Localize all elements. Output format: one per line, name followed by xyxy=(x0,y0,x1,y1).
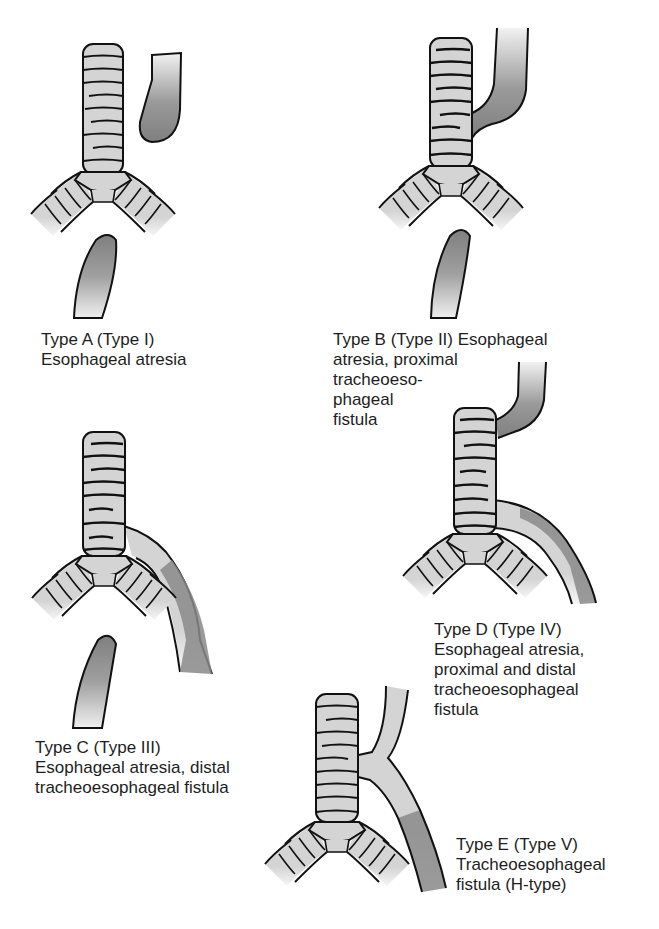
label-type-c: Type C (Type III) Esophageal atresia, di… xyxy=(35,738,230,798)
label-line: Esophageal atresia, distal xyxy=(35,758,230,778)
esophagus-lower-segment-a xyxy=(74,235,116,318)
label-line: proximal and distal xyxy=(434,660,584,680)
panel-type-a xyxy=(31,44,181,318)
label-line: atresia, proximal xyxy=(333,350,548,370)
label-line: fistula (H-type) xyxy=(456,875,606,895)
label-line: tracheoesophageal xyxy=(434,680,584,700)
esophagus-lower-segment-b xyxy=(431,230,470,318)
panel-type-e xyxy=(265,686,446,892)
label-type-a: Type A (Type I) Esophageal atresia xyxy=(41,330,187,370)
label-line: fistula xyxy=(333,410,548,430)
label-type-e: Type E (Type V) Tracheoesophageal fistul… xyxy=(456,835,606,895)
esophagus-proximal-fistula-b xyxy=(470,28,528,138)
label-line: Esophageal atresia, xyxy=(434,640,584,660)
panel-type-c xyxy=(32,432,212,728)
label-line: Type E (Type V) xyxy=(456,835,606,855)
trachea-c xyxy=(83,432,125,556)
trachea-e xyxy=(316,694,358,822)
label-line: phageal xyxy=(333,390,548,410)
label-line: tracheoeso- xyxy=(333,370,548,390)
label-line: Type B (Type II) Esophageal xyxy=(333,330,548,350)
label-line: Type D (Type IV) xyxy=(434,620,584,640)
label-line: Type C (Type III) xyxy=(35,738,230,758)
label-line: tracheoesophageal fistula xyxy=(35,778,230,798)
label-line: Tracheoesophageal xyxy=(456,855,606,875)
trachea-a xyxy=(83,44,123,174)
panel-type-b xyxy=(379,28,528,318)
label-type-b: Type B (Type II) Esophageal atresia, pro… xyxy=(333,330,548,430)
trachea-b xyxy=(430,38,472,168)
label-line: fistula xyxy=(434,700,584,720)
label-line: Esophageal atresia xyxy=(41,350,187,370)
label-line: Type A (Type I) xyxy=(41,330,187,350)
label-type-d: Type D (Type IV) Esophageal atresia, pro… xyxy=(434,620,584,720)
esophagus-lower-segment-c xyxy=(73,636,116,728)
esophagus-upper-pouch-a xyxy=(140,53,181,142)
